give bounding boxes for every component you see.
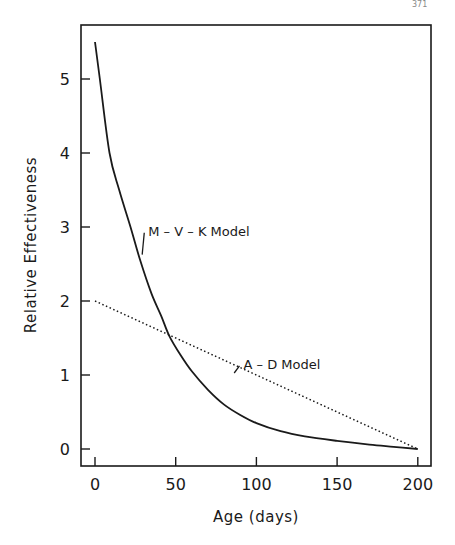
y-tick-label: 0 [60, 440, 70, 459]
y-tick-label: 2 [60, 292, 70, 311]
x-tick-label: 0 [90, 475, 100, 494]
y-tick-label: 3 [60, 218, 70, 237]
annotation-leader [234, 366, 239, 373]
x-axis-ticks: 050100150200 [90, 457, 433, 494]
y-tick-label: 1 [60, 366, 70, 385]
x-tick-label: 150 [322, 475, 353, 494]
x-tick-label: 50 [166, 475, 186, 494]
annotation-leader [142, 233, 144, 255]
annotations: M – V – K ModelA – D Model [142, 224, 320, 373]
chart: 012345 050100150200 M – V – K ModelA – D… [0, 0, 455, 545]
y-tick-label: 5 [60, 70, 70, 89]
ad-model-label: A – D Model [243, 357, 320, 372]
ad-model-line [95, 301, 418, 449]
y-axis-title: Relative Effectiveness [22, 157, 40, 333]
plot-frame [81, 25, 431, 466]
x-tick-label: 200 [403, 475, 434, 494]
mvk-model-label: M – V – K Model [148, 224, 249, 239]
x-axis-title: Age (days) [213, 508, 299, 526]
y-axis-ticks: 012345 [60, 70, 90, 459]
y-tick-label: 4 [60, 144, 70, 163]
x-tick-label: 100 [241, 475, 272, 494]
